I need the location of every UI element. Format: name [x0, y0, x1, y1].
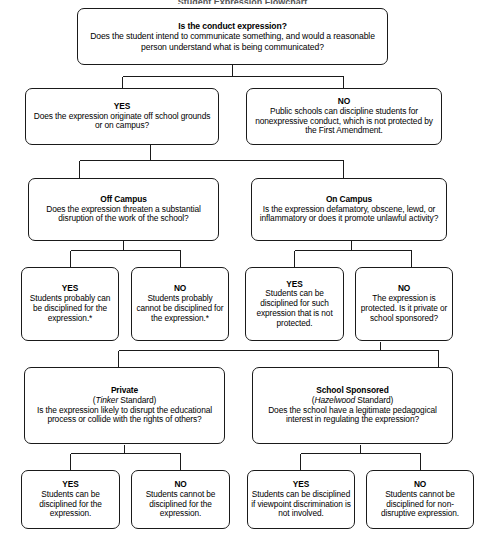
- node-body: Students probably can be disciplined for…: [25, 294, 115, 323]
- node-heading: Is the conduct expression?: [178, 21, 287, 31]
- node-off-campus-no[interactable]: NO Students probably cannot be disciplin…: [131, 267, 229, 341]
- node-body: Students can be disciplined for such exp…: [249, 289, 340, 328]
- node-standard-label: (Hazelwood Standard): [312, 396, 393, 406]
- flowchart-canvas: Student Expression Flowchart: [0, 0, 485, 536]
- node-standard-label: (Tinker Standard): [93, 396, 156, 406]
- node-sponsored-yes[interactable]: YES Students can be disciplined if viewp…: [247, 470, 355, 529]
- node-body: Students can be disciplined if viewpoint…: [251, 490, 351, 519]
- node-yes-origin[interactable]: YES Does the expression originate off sc…: [25, 88, 219, 145]
- node-body: Public schools can discipline students f…: [250, 107, 438, 137]
- standard-name: Tinker: [95, 395, 118, 405]
- node-private-no[interactable]: NO Students cannot be disciplined for th…: [131, 470, 230, 529]
- node-off-campus-yes[interactable]: YES Students probably can be disciplined…: [21, 267, 119, 341]
- node-body: The expression is protected. Is it priva…: [359, 294, 449, 323]
- node-off-campus[interactable]: Off Campus Does the expression threaten …: [28, 178, 219, 241]
- node-body: Is the expression likely to disrupt the …: [28, 406, 221, 426]
- node-body: Does the student intend to communicate s…: [81, 31, 384, 51]
- standard-suffix: Standard): [118, 395, 156, 405]
- node-private-tinker[interactable]: Private (Tinker Standard) Is the express…: [24, 367, 225, 444]
- node-sponsored-no[interactable]: NO Students cannot be disciplined for no…: [366, 470, 474, 529]
- node-body: Students cannot be disciplined for the e…: [135, 490, 226, 519]
- node-body: Students cannot be disciplined for non-d…: [370, 490, 470, 519]
- standard-suffix: Standard): [355, 395, 393, 405]
- node-body: Does the expression threaten a substanti…: [32, 205, 215, 225]
- node-private-yes[interactable]: YES Students can be disciplined for the …: [21, 470, 120, 529]
- node-is-conduct-expression[interactable]: Is the conduct expression? Does the stud…: [77, 8, 388, 65]
- node-no-nonexpressive[interactable]: NO Public schools can discipline student…: [246, 88, 442, 145]
- node-body: Does the expression originate off school…: [29, 112, 215, 132]
- node-body: Students probably cannot be disciplined …: [135, 294, 225, 323]
- node-body: Is the expression defamatory, obscene, l…: [255, 205, 443, 225]
- node-on-campus[interactable]: On Campus Is the expression defamatory, …: [251, 178, 447, 241]
- clipped-title: Student Expression Flowchart: [0, 0, 485, 4]
- standard-name: Hazelwood: [315, 395, 356, 405]
- node-on-campus-yes[interactable]: YES Students can be disciplined for such…: [245, 267, 344, 341]
- node-body: Students can be disciplined for the expr…: [25, 490, 116, 519]
- node-body: Does the school have a legitimate pedago…: [256, 406, 449, 426]
- node-on-campus-no[interactable]: NO The expression is protected. Is it pr…: [355, 267, 453, 341]
- node-school-sponsored-hazelwood[interactable]: School Sponsored (Hazelwood Standard) Do…: [252, 367, 453, 444]
